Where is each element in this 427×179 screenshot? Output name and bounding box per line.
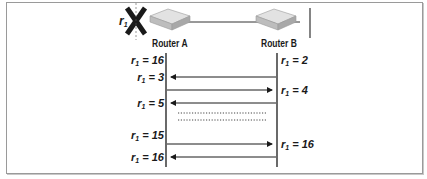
router-b-value-label: r1 = 16: [281, 138, 314, 154]
router-b-label: Router B: [261, 38, 297, 49]
router-a-value-label: r1 = 16: [120, 54, 164, 70]
failed-route-label: r1: [119, 15, 128, 31]
count-to-infinity-diagram: [0, 0, 427, 179]
router-a-icon: [150, 9, 190, 30]
router-b-value-label: r1 = 2: [281, 54, 308, 70]
router-a-value-label: r1 = 5: [120, 97, 164, 113]
router-a-value-label: r1 = 15: [120, 129, 164, 145]
x-cross-icon: [127, 3, 145, 40]
router-a-value-label: r1 = 16: [120, 151, 164, 167]
router-a-value-label: r1 = 3: [120, 71, 164, 87]
router-b-value-label: r1 = 4: [281, 84, 308, 100]
router-b-icon: [256, 9, 296, 30]
router-a-label: Router A: [152, 38, 188, 49]
